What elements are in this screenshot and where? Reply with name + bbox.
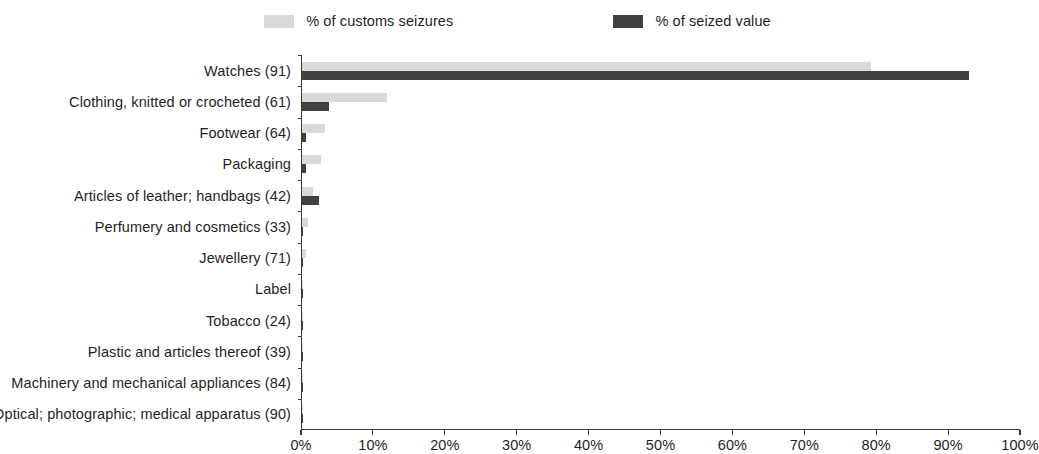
x-axis-tick — [588, 430, 589, 435]
y-axis-label: Optical; photographic; medical apparatus… — [0, 399, 296, 430]
bar-chart: Watches (91)Clothing, knitted or crochet… — [0, 50, 1035, 441]
y-axis-label: Perfumery and cosmetics (33) — [0, 211, 296, 242]
bar-group — [302, 218, 1020, 236]
bar-customs-seizures — [302, 374, 303, 383]
x-axis-tick-label: 100% — [1001, 437, 1039, 453]
bar-row — [302, 211, 1020, 242]
y-axis-label: Jewellery (71) — [0, 243, 296, 274]
bar-row — [302, 243, 1020, 274]
bar-group — [302, 155, 1020, 173]
x-axis-tick-labels: 0%10%20%30%40%50%60%70%80%90%100% — [301, 437, 1020, 454]
y-axis-label: Plastic and articles thereof (39) — [0, 336, 296, 367]
legend-swatch-customs-seizures — [264, 15, 294, 28]
bar-seized-value — [302, 164, 306, 173]
x-axis-tick-label: 50% — [646, 437, 675, 453]
bar-group — [302, 405, 1020, 423]
bar-seized-value — [302, 289, 303, 298]
y-axis-label: Machinery and mechanical appliances (84) — [0, 368, 296, 399]
bar-seized-value — [302, 71, 969, 80]
bar-row — [302, 118, 1020, 149]
bar-customs-seizures — [302, 249, 306, 258]
bar-customs-seizures — [302, 62, 871, 71]
x-axis-tick-label: 60% — [718, 437, 747, 453]
bar-row — [302, 368, 1020, 399]
x-axis-tick — [804, 430, 805, 435]
y-axis-label: Footwear (64) — [0, 118, 296, 149]
bar-row — [302, 274, 1020, 305]
bar-group — [302, 124, 1020, 142]
y-axis-category-labels: Watches (91)Clothing, knitted or crochet… — [0, 55, 296, 430]
x-axis-tick — [300, 430, 301, 435]
y-axis-label: Watches (91) — [0, 55, 296, 86]
bar-group — [302, 374, 1020, 392]
bar-seized-value — [302, 383, 303, 392]
bar-customs-seizures — [302, 218, 308, 227]
bar-customs-seizures — [302, 124, 325, 133]
y-axis-label: Label — [0, 274, 296, 305]
x-axis-tick-label: 10% — [358, 437, 387, 453]
bar-group — [302, 343, 1020, 361]
x-axis-tick — [660, 430, 661, 435]
bar-group — [302, 280, 1020, 298]
y-axis-label: Clothing, knitted or crocheted (61) — [0, 86, 296, 117]
bar-customs-seizures — [302, 312, 303, 321]
legend-entry: % of seized value — [613, 13, 770, 29]
bar-customs-seizures — [302, 280, 303, 289]
bar-group — [302, 249, 1020, 267]
bar-group — [302, 62, 1020, 80]
bar-group — [302, 93, 1020, 111]
bar-seized-value — [302, 321, 303, 330]
bar-customs-seizures — [302, 187, 313, 196]
bar-row — [302, 180, 1020, 211]
bar-customs-seizures — [302, 343, 303, 352]
bar-group — [302, 312, 1020, 330]
x-axis-tick — [516, 430, 517, 435]
x-axis-tick-label: 70% — [790, 437, 819, 453]
bar-customs-seizures — [302, 93, 387, 102]
bar-seized-value — [302, 133, 306, 142]
x-axis-tick — [1019, 430, 1020, 435]
bar-seized-value — [302, 352, 303, 361]
y-axis-label: Tobacco (24) — [0, 305, 296, 336]
x-axis-tick-label: 0% — [290, 437, 311, 453]
x-axis-tick-label: 30% — [502, 437, 531, 453]
bar-seized-value — [302, 196, 319, 205]
bar-seized-value — [302, 102, 329, 111]
x-axis-tick — [732, 430, 733, 435]
x-axis-tick — [948, 430, 949, 435]
x-axis-tick-label: 20% — [430, 437, 459, 453]
bar-row — [302, 305, 1020, 336]
x-axis-tick — [444, 430, 445, 435]
x-axis-tick — [876, 430, 877, 435]
legend-swatch-seized-value — [613, 15, 643, 28]
bar-row — [302, 86, 1020, 117]
bar-customs-seizures — [302, 405, 303, 414]
bar-row — [302, 55, 1020, 86]
plot-area — [301, 55, 1020, 430]
bar-seized-value — [302, 227, 303, 236]
legend-label: % of customs seizures — [306, 13, 453, 29]
chart-legend: % of customs seizures% of seized value — [0, 8, 1035, 34]
bar-seized-value — [302, 414, 303, 423]
bar-group — [302, 187, 1020, 205]
bar-row — [302, 399, 1020, 430]
bar-row — [302, 336, 1020, 367]
y-axis-label: Articles of leather; handbags (42) — [0, 180, 296, 211]
x-axis-tick-label: 40% — [574, 437, 603, 453]
legend-label: % of seized value — [655, 13, 770, 29]
bar-seized-value — [302, 258, 303, 267]
bar-rows — [302, 55, 1020, 429]
bar-customs-seizures — [302, 155, 321, 164]
x-axis-ticks — [301, 430, 1020, 436]
x-axis-tick — [372, 430, 373, 435]
y-axis-label: Packaging — [0, 149, 296, 180]
legend-entry: % of customs seizures — [264, 13, 453, 29]
x-axis-tick-label: 80% — [862, 437, 891, 453]
bar-row — [302, 149, 1020, 180]
x-axis-tick-label: 90% — [933, 437, 962, 453]
